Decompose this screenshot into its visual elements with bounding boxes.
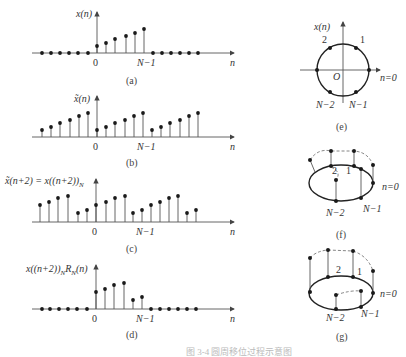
label-1-f: 1	[346, 165, 351, 176]
tag-a: (a)	[126, 75, 137, 87]
panel-b: x̃(n) 0 N−1 n (b)	[32, 93, 235, 169]
dashed-envelope	[310, 250, 373, 271]
label-n2-e: N−2	[315, 99, 334, 110]
label-n1-e: N−1	[348, 99, 367, 110]
tag-d: (d)	[126, 329, 138, 341]
stems-a	[40, 27, 200, 55]
xlabel-b: n	[230, 141, 235, 152]
tick-0-b: 0	[93, 141, 98, 152]
label-2-g: 2	[336, 264, 341, 275]
panel-e: x(n) 2 1 O n=0 N−2 N−1 (e)	[300, 21, 397, 133]
panel-d: x((n+2))NRN(n) 0 N−1 n (d)	[25, 263, 235, 341]
tick-0-c: 0	[92, 226, 97, 237]
xlabel-c: n	[230, 226, 235, 237]
panel-g: 2 1 n=0 N−2 N−1 (g)	[308, 248, 397, 343]
label-1-g: 1	[357, 266, 362, 277]
tag-f: (f)	[336, 229, 346, 241]
base-ellipse	[309, 165, 373, 201]
xlabel-a: n	[230, 57, 235, 68]
panel-c: x̃(n+2) = x((n+2))N 0 N−1 n (c)	[4, 175, 235, 255]
dashed-envelope	[310, 150, 373, 165]
origin-e: O	[333, 71, 340, 82]
tick-0-d: 0	[92, 313, 97, 324]
ylabel-a: x(n)	[75, 8, 93, 20]
xlabel-d: n	[230, 313, 235, 324]
tick-n1-c: N−1	[135, 226, 154, 237]
label-n0-e: n=0	[380, 72, 397, 83]
label-n2-g: N−2	[325, 312, 344, 323]
label-n0-f: n=0	[382, 181, 399, 192]
tag-e: (e)	[336, 121, 347, 133]
label-n2-f: N−2	[325, 207, 344, 218]
stems-b	[40, 111, 200, 137]
dashed-inner	[336, 291, 361, 295]
stems-c	[38, 194, 198, 222]
tag-c: (c)	[126, 243, 137, 255]
tick-n1-b: N−1	[136, 141, 155, 152]
stems-d	[40, 281, 198, 311]
tick-0-a: 0	[93, 57, 98, 68]
tag-b: (b)	[126, 157, 138, 169]
panel-a: x(n) 0 N−1 n (a)	[32, 8, 235, 87]
figure-caption: 图 3-4 圆周移位过程示意图	[186, 346, 293, 357]
label-n1-f: N−1	[362, 203, 381, 214]
panel-f: 2 1 n=0 N−2 N−1 (f)	[308, 149, 399, 241]
label-n0-g: n=0	[380, 288, 397, 299]
label-1-e: 1	[360, 34, 365, 45]
label-2-f: 2	[332, 165, 337, 176]
tick-n1-d: N−1	[135, 313, 154, 324]
tick-n1-a: N−1	[136, 57, 155, 68]
label-2-e: 2	[322, 34, 327, 45]
label-n1-g: N−1	[360, 308, 379, 319]
tag-g: (g)	[336, 331, 348, 343]
ylabel-b: x̃(n)	[73, 93, 91, 105]
ylabel-e: x(n)	[313, 21, 331, 33]
circular-shift-figure: x(n) 0 N−1 n (a) x̃(n)	[0, 0, 406, 357]
ylabel-d: x((n+2))NRN(n)	[25, 263, 88, 277]
ylabel-c: x̃(n+2) = x((n+2))N	[4, 175, 84, 189]
